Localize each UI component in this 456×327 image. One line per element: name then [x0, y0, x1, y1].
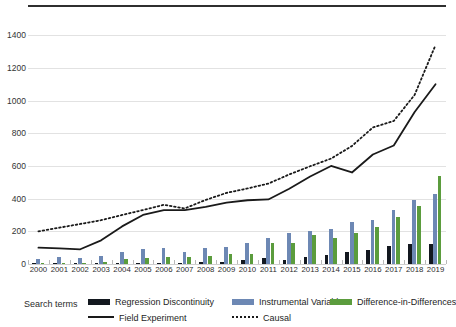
x-tick-mark	[300, 260, 301, 264]
x-tick-label-2012: 2012	[281, 265, 298, 274]
x-tick-mark	[112, 260, 113, 264]
legend-item-causal[interactable]: Causal	[232, 312, 291, 323]
legend-swatch-dotted	[232, 316, 258, 318]
x-tick-label-2010: 2010	[239, 265, 256, 274]
legend-swatch-iv	[232, 299, 254, 305]
x-tick-label-2006: 2006	[155, 265, 172, 274]
y-tick-label: 0	[0, 259, 26, 269]
y-tick-label: 200	[0, 226, 26, 236]
x-tick-mark	[362, 260, 363, 264]
x-tick-mark	[49, 260, 50, 264]
plot-area	[28, 27, 446, 264]
y-tick-label: 1400	[0, 30, 26, 40]
y-tick-label: 600	[0, 161, 26, 171]
legend-swatch-did	[330, 299, 352, 305]
legend-swatch-rd	[88, 299, 110, 305]
x-tick-mark	[91, 260, 92, 264]
x-tick-mark	[174, 260, 175, 264]
chart-legend: Search terms Regression DiscontinuityIns…	[0, 288, 449, 327]
x-tick-mark	[446, 260, 447, 264]
x-tick-mark	[279, 260, 280, 264]
x-tick-label-2013: 2013	[301, 265, 318, 274]
legend-label: Regression Discontinuity	[115, 297, 214, 307]
x-tick-label-2017: 2017	[385, 265, 402, 274]
causal-line	[38, 45, 435, 231]
x-tick-mark	[237, 260, 238, 264]
x-tick-mark	[342, 260, 343, 264]
x-tick-label-2019: 2019	[427, 265, 444, 274]
y-tick-label: 1200	[0, 63, 26, 73]
x-tick-mark	[133, 260, 134, 264]
x-tick-label-2001: 2001	[51, 265, 68, 274]
legend-label: Causal	[263, 313, 291, 323]
x-tick-mark	[153, 260, 154, 264]
x-tick-label-2011: 2011	[260, 265, 277, 274]
legend-item-regression-discontinuity[interactable]: Regression Discontinuity	[88, 296, 214, 307]
x-tick-mark	[28, 260, 29, 264]
x-tick-label-2014: 2014	[322, 265, 339, 274]
legend-item-difference-in-differences[interactable]: Difference-in-Differences	[330, 296, 456, 307]
x-tick-mark	[258, 260, 259, 264]
x-tick-label-2007: 2007	[176, 265, 193, 274]
x-tick-label-2005: 2005	[134, 265, 151, 274]
line-layer	[28, 27, 446, 264]
x-axis-labels: 2000200120022003200420052006200720082009…	[28, 265, 446, 279]
legend-item-field-experiment[interactable]: Field Experiment	[88, 312, 187, 323]
legend-swatch-solid	[88, 316, 114, 318]
y-tick-label: 800	[0, 128, 26, 138]
y-axis-labels: 0200400600800100012001400	[0, 27, 26, 264]
x-tick-label-2018: 2018	[406, 265, 423, 274]
x-tick-mark	[70, 260, 71, 264]
legend-item-instrumental-variable[interactable]: Instrumental Variable	[232, 296, 343, 307]
y-tick-label: 1000	[0, 96, 26, 106]
legend-label: Field Experiment	[119, 313, 187, 323]
x-tick-label-2002: 2002	[72, 265, 89, 274]
x-tick-mark	[321, 260, 322, 264]
x-tick-mark	[425, 260, 426, 264]
field-experiment-line	[38, 84, 435, 249]
x-tick-label-2008: 2008	[197, 265, 214, 274]
top-divider-rule	[28, 5, 446, 7]
x-tick-label-2000: 2000	[30, 265, 47, 274]
x-tick-label-2003: 2003	[92, 265, 109, 274]
x-tick-label-2009: 2009	[218, 265, 235, 274]
x-tick-mark	[383, 260, 384, 264]
x-tick-label-2016: 2016	[364, 265, 381, 274]
legend-label: Difference-in-Differences	[357, 297, 456, 307]
x-tick-mark	[195, 260, 196, 264]
x-tick-label-2015: 2015	[343, 265, 360, 274]
x-tick-mark	[404, 260, 405, 264]
x-tick-mark	[216, 260, 217, 264]
legend-title: Search terms	[24, 299, 78, 309]
y-tick-label: 400	[0, 194, 26, 204]
x-tick-label-2004: 2004	[113, 265, 130, 274]
